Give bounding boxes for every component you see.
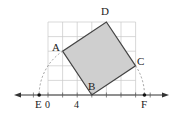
- axis-left-arrow-icon: [14, 93, 21, 98]
- point-e-marker: [37, 93, 41, 97]
- label-e: E: [35, 99, 42, 110]
- coordinate-diagram: [0, 0, 177, 115]
- label-b: B: [88, 81, 95, 92]
- label-a: A: [52, 42, 60, 53]
- label-d: D: [101, 6, 109, 17]
- square-abcd: [63, 22, 136, 95]
- tick-label-0: 0: [45, 100, 50, 110]
- point-f-marker: [143, 93, 147, 97]
- arc-c-to-f: [136, 66, 145, 95]
- arc-a-to-e: [39, 51, 62, 95]
- axis-right-arrow-icon: [162, 93, 169, 98]
- label-f: F: [141, 99, 147, 110]
- label-c: C: [137, 56, 144, 67]
- tick-label-2: 4: [74, 100, 79, 110]
